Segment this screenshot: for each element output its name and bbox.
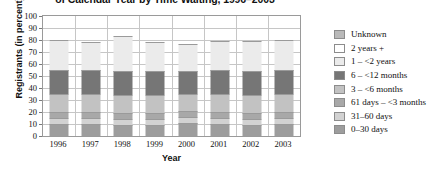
bar-segment <box>82 94 101 112</box>
legend-swatch <box>334 125 345 134</box>
bar-segment <box>242 125 261 136</box>
stacked-bar <box>82 16 101 136</box>
legend-item: 2 years + <box>334 42 426 56</box>
chart-figure: of Calendar Year by Time Waiting, 1996–2… <box>0 0 441 185</box>
bar-segment <box>242 95 261 113</box>
y-axis-tick-label: 30 <box>29 96 38 105</box>
legend-label: 61 days – <3 months <box>351 98 426 107</box>
bar-group <box>75 16 107 136</box>
bar-segment <box>274 94 293 112</box>
legend-label: Unknown <box>351 30 387 39</box>
legend-item: Unknown <box>334 28 426 42</box>
bar-segment <box>82 70 101 94</box>
bar-segment <box>242 119 261 125</box>
x-axis-tick-label: 2002 <box>242 139 259 149</box>
bar-segment <box>242 71 261 95</box>
legend-swatch <box>334 57 345 66</box>
bar-segment <box>82 112 101 118</box>
legend-swatch <box>334 85 345 94</box>
legend-item: 6 – <12 months <box>334 69 426 83</box>
stacked-bar <box>178 16 197 136</box>
legend-swatch <box>334 30 345 39</box>
x-axis-tick-label: 2003 <box>274 139 291 149</box>
bar-series-container <box>43 16 300 136</box>
bar-segment <box>114 95 133 113</box>
legend-swatch <box>334 112 345 121</box>
bar-segment <box>146 113 165 119</box>
bar-segment <box>274 118 293 124</box>
bar-segment <box>114 113 133 119</box>
bar-group <box>236 16 268 136</box>
stacked-bar <box>146 16 165 136</box>
y-axis-tick-label: 20 <box>29 108 38 117</box>
y-axis-tick-labels: 0102030405060708090100 <box>0 15 40 137</box>
bar-segment <box>114 125 133 136</box>
bar-segment <box>210 112 229 118</box>
bar-segment <box>178 117 197 123</box>
bar-segment <box>146 95 165 113</box>
stacked-bar <box>274 16 293 136</box>
chart-title: of Calendar Year by Time Waiting, 1996–2… <box>0 0 330 5</box>
bar-segment <box>210 70 229 94</box>
bar-group <box>43 16 75 136</box>
bar-segment <box>146 71 165 95</box>
bar-segment <box>82 42 101 70</box>
y-axis-tick-label: 10 <box>29 120 38 129</box>
stacked-bar <box>114 16 133 136</box>
bar-segment <box>146 42 165 71</box>
x-axis-title: Year <box>42 153 301 163</box>
bar-group <box>268 16 300 136</box>
x-axis-tick-label: 1997 <box>82 139 99 149</box>
bar-segment <box>274 70 293 94</box>
legend-label: 31–60 days <box>351 112 392 121</box>
x-axis-tick-label: 1998 <box>114 139 131 149</box>
bar-segment <box>210 94 229 112</box>
y-axis-tick-label: 90 <box>29 24 38 33</box>
bar-segment <box>178 44 197 72</box>
stacked-bar <box>210 16 229 136</box>
y-axis-tick-label: 60 <box>29 60 38 69</box>
bar-segment <box>210 41 229 70</box>
bar-segment <box>50 40 69 70</box>
legend-item: 61 days – <3 months <box>334 96 426 110</box>
plot-area <box>42 15 301 137</box>
bar-segment <box>50 70 69 94</box>
stacked-bar <box>242 16 261 136</box>
chart-legend: Unknown2 years +1 – <2 years6 – <12 mont… <box>334 28 426 137</box>
x-axis-tick-label: 2001 <box>210 139 227 149</box>
bar-segment <box>114 71 133 95</box>
x-axis-tick-label: 1996 <box>50 139 67 149</box>
legend-item: 3 – <6 months <box>334 82 426 96</box>
legend-swatch <box>334 98 345 107</box>
y-axis-tick-label: 40 <box>29 84 38 93</box>
x-axis-tick-label: 2000 <box>178 139 195 149</box>
legend-label: 2 years + <box>351 44 384 53</box>
legend-label: 3 – <6 months <box>351 85 403 94</box>
bar-segment <box>114 119 133 125</box>
legend-swatch <box>334 71 345 80</box>
bar-segment <box>210 118 229 124</box>
bar-segment <box>82 124 101 136</box>
stacked-bar <box>50 16 69 136</box>
bar-segment <box>50 94 69 112</box>
bar-segment <box>274 124 293 136</box>
legend-label: 6 – <12 months <box>351 71 407 80</box>
x-axis-tick-labels: 19961997199819992000200120022003 <box>42 139 301 153</box>
y-axis-tick-label: 80 <box>29 36 38 45</box>
bar-segment <box>50 118 69 124</box>
bar-segment <box>210 124 229 136</box>
bar-segment <box>146 125 165 136</box>
legend-item: 31–60 days <box>334 110 426 124</box>
bar-group <box>107 16 139 136</box>
bar-segment <box>178 111 197 117</box>
bar-segment <box>274 40 293 70</box>
legend-label: 1 – <2 years <box>351 57 395 66</box>
bar-segment <box>242 41 261 71</box>
bar-group <box>204 16 236 136</box>
bar-segment <box>50 124 69 136</box>
bar-segment <box>178 94 197 111</box>
bar-segment <box>242 113 261 119</box>
bar-segment <box>50 112 69 118</box>
x-axis-tick-label: 1999 <box>146 139 163 149</box>
bar-group <box>172 16 204 136</box>
